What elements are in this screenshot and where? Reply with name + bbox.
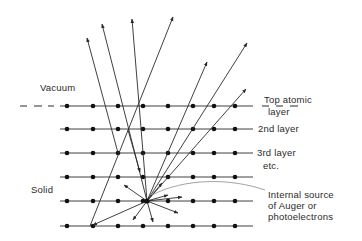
atom-dot [166, 127, 171, 132]
electron-trajectories [87, 17, 247, 226]
atom-dot [212, 224, 217, 229]
source-label-1: Internal source [268, 189, 334, 200]
atom-dot [141, 224, 146, 229]
atom-dot [191, 175, 196, 180]
atom-dot [233, 127, 238, 132]
atom-dot [65, 224, 70, 229]
top-layer-label-1: Top atomic [264, 94, 312, 105]
trajectory-arrow [87, 38, 118, 153]
trajectory-arrow [102, 24, 147, 201]
atom-dot [91, 175, 96, 180]
atom-dot [166, 199, 171, 204]
atom-dot [91, 127, 96, 132]
source-leader-line [152, 182, 265, 195]
source-label-3: photoelectrons [268, 211, 333, 222]
atom-dot [65, 104, 70, 109]
atom-dot [191, 104, 196, 109]
atom-dot [212, 199, 217, 204]
atom-dot [65, 199, 70, 204]
trajectory-arrow [90, 17, 173, 226]
trajectory-arrow [147, 197, 182, 201]
trajectory-arrow [147, 201, 178, 213]
atom-dot [191, 224, 196, 229]
trajectory-arrow [147, 62, 207, 201]
third-layer-label-1: 3rd layer [257, 147, 296, 158]
trajectory-arrow [147, 183, 162, 201]
atom-dot [91, 104, 96, 109]
trajectory-arrow [147, 201, 153, 222]
atom-dot [116, 199, 121, 204]
atom-dot [233, 224, 238, 229]
trajectory-arrow [132, 19, 147, 201]
atom-dot [212, 175, 217, 180]
atom-dot [116, 104, 121, 109]
atom-dot [233, 151, 238, 156]
atomic-lattice [60, 104, 253, 229]
top-layer-label-2: layer [268, 106, 290, 117]
vacuum-label: Vacuum [40, 82, 75, 93]
atom-dot [116, 127, 121, 132]
trajectory-arrow [93, 201, 147, 225]
atom-dot [141, 104, 146, 109]
solid-label: Solid [31, 184, 53, 195]
atom-dot [116, 175, 121, 180]
atom-dot [191, 199, 196, 204]
atom-dot [65, 175, 70, 180]
atom-dot [233, 104, 238, 109]
internal-source-point [144, 198, 149, 203]
atom-dot [233, 199, 238, 204]
atom-dot [212, 104, 217, 109]
atom-dot [65, 151, 70, 156]
third-layer-label-2: etc. [263, 160, 279, 171]
source-label-2: of Auger or [268, 200, 317, 211]
atom-dot [65, 127, 70, 132]
atom-dot [166, 224, 171, 229]
atom-dot [91, 199, 96, 204]
trajectory-incoming [128, 130, 140, 172]
atom-dot [212, 151, 217, 156]
atom-dot [233, 175, 238, 180]
atom-dot [116, 224, 121, 229]
atom-dot [91, 151, 96, 156]
atom-dot [166, 104, 171, 109]
second-layer-label: 2nd layer [258, 123, 299, 134]
